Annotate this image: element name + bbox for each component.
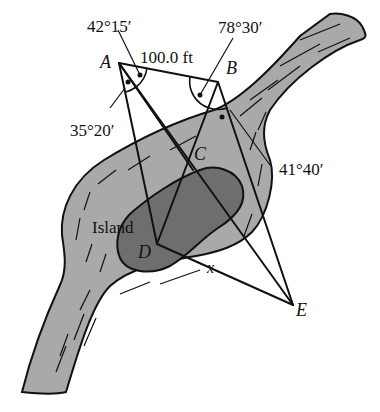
point-B-label: B <box>226 58 237 78</box>
arc-B-upper <box>190 77 209 108</box>
angle-B-lower-label: 41°40′ <box>279 160 324 179</box>
distance-AB-label: 100.0 ft <box>140 48 193 67</box>
unknown-x-label: x <box>206 259 214 276</box>
angle-A-lower-label: 35°20′ <box>70 121 115 140</box>
point-C-label: C <box>194 144 207 164</box>
line-DE <box>157 244 293 305</box>
point-D-label: D <box>137 242 151 262</box>
river-triangulation-diagram: 42°15′ 78°30′ 100.0 ft 35°20′ 41°40′ A B… <box>0 0 380 412</box>
point-E-label: E <box>295 300 307 320</box>
angle-A-upper-label: 42°15′ <box>87 17 132 36</box>
arc-A-lower <box>126 87 136 92</box>
island-label: Island <box>92 218 134 237</box>
point-A-label: A <box>99 52 112 72</box>
angle-B-upper-label: 78°30′ <box>218 18 263 37</box>
